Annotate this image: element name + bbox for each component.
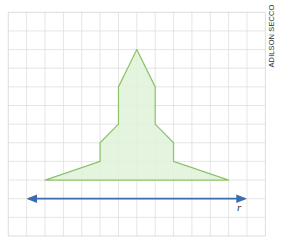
symmetric-polygon [45,50,229,180]
grid-figure [0,0,286,248]
line-r-label: r [237,201,241,213]
image-credit: ADILSON SECCO [267,5,276,68]
